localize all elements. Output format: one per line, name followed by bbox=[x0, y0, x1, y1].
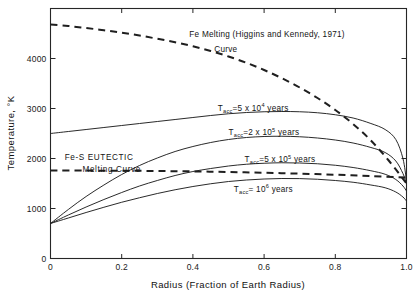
y-axis-title: Temperature, °K bbox=[5, 95, 16, 170]
annotation-fe-melting-line2: Curve bbox=[214, 45, 237, 54]
chart-background bbox=[0, 0, 418, 293]
x-tick-label: 0.6 bbox=[258, 262, 270, 272]
x-tick-label: 0.8 bbox=[329, 262, 341, 272]
x-tick-label: 1.0 bbox=[400, 262, 412, 272]
y-tick-label: 2000 bbox=[27, 154, 47, 164]
figure-container: 00.20.40.60.81.0 01000200030004000 Fe Me… bbox=[0, 0, 418, 293]
x-axis-title: Radius (Fraction of Earth Radius) bbox=[151, 279, 305, 290]
x-tick-label: 0 bbox=[48, 262, 53, 272]
x-tick-label: 0.2 bbox=[115, 262, 127, 272]
y-tick-label: 4000 bbox=[27, 54, 47, 64]
y-tick-label: 1000 bbox=[27, 204, 47, 214]
annotation-fe-melting-line1: Fe Melting (Higgins and Kennedy, 1971) bbox=[189, 30, 344, 39]
y-tick-label: 3000 bbox=[27, 104, 47, 114]
annotation-fe-s-eutectic-line2: Melting Curve bbox=[83, 165, 141, 174]
x-tick-label: 0.4 bbox=[187, 262, 199, 272]
annotation-fe-s-eutectic-line1: Fe-S EUTECTIC bbox=[65, 153, 134, 162]
y-tick-label: 0 bbox=[42, 254, 47, 264]
temperature-vs-radius-chart: 00.20.40.60.81.0 01000200030004000 Fe Me… bbox=[0, 0, 418, 293]
